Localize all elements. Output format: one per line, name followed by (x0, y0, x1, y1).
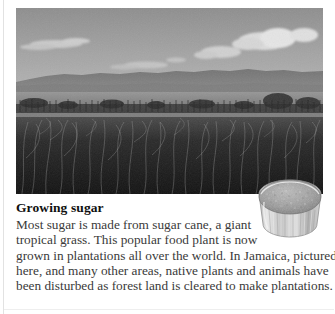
caption-line: tropical grass. This popular food plant … (16, 232, 256, 247)
caption-line: Most sugar is made from sugar cane, a gi… (16, 217, 256, 232)
page-container: Growing sugar Most sugar is made from su… (0, 0, 335, 314)
sugar-cane-field-photograph (16, 8, 323, 194)
caption-line: here, and many other areas, native plant… (16, 263, 328, 278)
caption-line: been disturbed as forest land is cleared… (16, 278, 328, 293)
caption-bottom-rule (4, 309, 334, 310)
bowl-of-sugar-photograph (251, 176, 329, 240)
page-gutter-rule (3, 0, 4, 314)
caption-line: grown in plantations all over the world.… (16, 248, 328, 263)
